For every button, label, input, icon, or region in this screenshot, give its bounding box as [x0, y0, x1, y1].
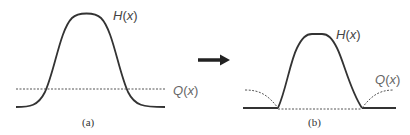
q-label-b: Q(x) — [375, 72, 400, 87]
panel-b: H(x) Q(x) (b) — [243, 27, 400, 129]
panel-a: H(x) Q(x) (a) — [16, 8, 198, 129]
q-label-a: Q(x) — [173, 83, 198, 98]
q-curve-left-b — [245, 90, 278, 108]
h-curve-a — [16, 14, 165, 108]
h-curve-b — [278, 34, 362, 108]
arrow-right-icon — [198, 55, 230, 66]
caption-b: (b) — [308, 116, 321, 129]
caption-a: (a) — [82, 116, 95, 129]
h-label-b: H(x) — [336, 27, 361, 42]
q-curve-right-b — [362, 90, 394, 108]
figure: H(x) Q(x) (a) H(x) Q(x) (b) — [0, 0, 410, 135]
h-label-a: H(x) — [113, 8, 138, 23]
